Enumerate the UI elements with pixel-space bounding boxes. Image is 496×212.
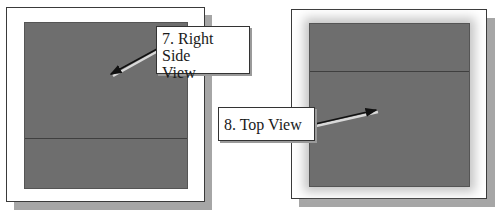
arrow-icon-top-view xyxy=(315,110,378,126)
callout-label-line1: 7. Right Side xyxy=(162,30,244,64)
callout-label-line2: View xyxy=(162,64,244,81)
arrow-icon-right-side-view xyxy=(111,49,158,76)
callout-top-view: 8. Top View xyxy=(218,107,315,141)
callout-label: 8. Top View xyxy=(224,116,309,133)
callout-right-side-view: 7. Right Side View xyxy=(156,26,250,74)
